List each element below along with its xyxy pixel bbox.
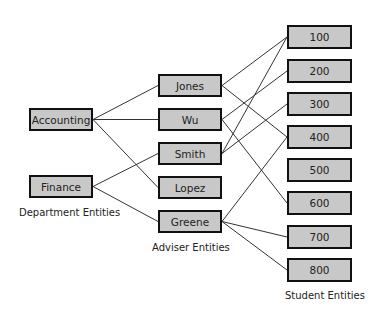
student-entity-s400: 400 <box>287 125 352 149</box>
adviser-entity-greene: Greene <box>158 210 222 233</box>
student-entity-s500: 500 <box>287 158 352 182</box>
student-entity-s600: 600 <box>287 191 352 215</box>
department-entities-label: Department Entities <box>19 207 120 218</box>
student-entity-s100: 100 <box>287 25 352 49</box>
adviser-entity-lopez: Lopez <box>158 176 222 199</box>
student-entity-s800: 800 <box>287 258 352 282</box>
entity-relationship-diagram: AccountingFinanceJonesWuSmithLopezGreene… <box>0 0 374 317</box>
edge-wu-s600 <box>222 120 287 204</box>
department-entity-finance: Finance <box>29 175 93 198</box>
student-entity-s300: 300 <box>287 92 352 116</box>
department-entity-accounting: Accounting <box>29 108 93 131</box>
edge-finance-smith <box>93 154 158 187</box>
adviser-entity-smith: Smith <box>158 142 222 165</box>
student-entity-s200: 200 <box>287 59 352 83</box>
adviser-entities-label: Adviser Entities <box>152 242 230 253</box>
adviser-entity-jones: Jones <box>158 74 222 97</box>
edge-greene-s400 <box>222 137 287 222</box>
edge-accounting-jones <box>93 86 158 120</box>
edge-accounting-lopez <box>93 120 158 188</box>
student-entity-s700: 700 <box>287 225 352 249</box>
adviser-entity-wu: Wu <box>158 108 222 131</box>
edge-smith-s100 <box>222 37 287 154</box>
student-entities-label: Student Entities <box>285 290 365 301</box>
